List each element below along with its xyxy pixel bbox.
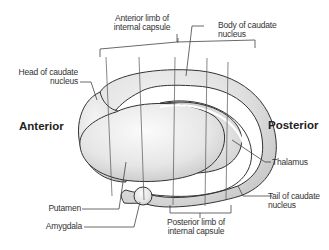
amygdala-label: Amygdala (30, 222, 82, 231)
body-of-caudate-label: Body of caudate nucleus (218, 21, 276, 39)
thalamus-label: Thalamus (272, 158, 308, 167)
putamen-label: Putamen (30, 204, 81, 213)
leader-body (186, 26, 204, 76)
anterior-limb-label: Anterior limb of internal capsule (106, 14, 178, 32)
amygdala-shape (134, 187, 152, 205)
posterior-limb-label: Posterior limb of internal capsule (160, 218, 232, 236)
leader-amygdala (84, 202, 140, 227)
head-of-caudate-label: Head of caudate nucleus (10, 68, 78, 86)
tail-of-caudate-label: Tail of caudate nucleus (268, 192, 320, 210)
posterior-direction-label: Posterior (268, 119, 319, 131)
anterior-direction-label: Anterior (19, 120, 64, 132)
